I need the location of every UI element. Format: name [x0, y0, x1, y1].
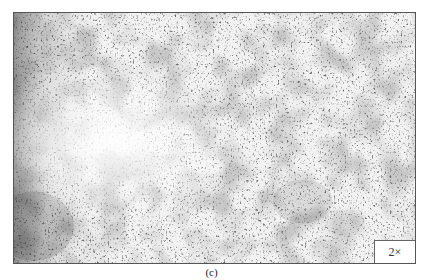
magnification-label: 2×: [374, 240, 415, 263]
micrograph-texture: [14, 13, 415, 263]
micrograph-panel: 2×: [13, 12, 416, 264]
figure: 2× (c): [0, 0, 423, 280]
panel-caption: (c): [0, 266, 423, 278]
